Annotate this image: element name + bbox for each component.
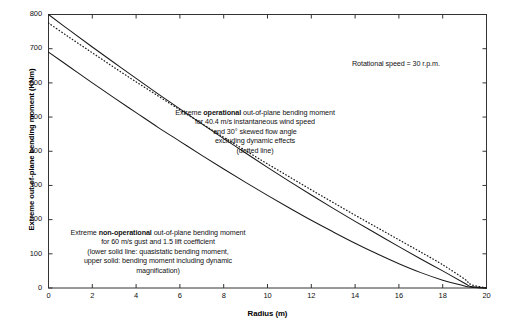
x-tick-label: 16 bbox=[389, 292, 409, 300]
x-tick-label: 2 bbox=[82, 292, 102, 300]
x-tick-label: 12 bbox=[301, 292, 321, 300]
annotation-line: magnification) bbox=[42, 266, 274, 275]
annotation-line: Extreme operational out-of-plane bending… bbox=[155, 108, 355, 117]
y-tick-label: 800 bbox=[16, 10, 42, 18]
x-tick-label: 8 bbox=[214, 292, 234, 300]
annotation-line: and 30° skewed flow angle bbox=[155, 127, 355, 136]
annotation-rotational-speed: Rotational speed = 30 r.p.m. bbox=[352, 59, 440, 68]
annotation-emphasis: operational bbox=[203, 108, 241, 117]
annotation-line: Rotational speed = 30 r.p.m. bbox=[352, 59, 440, 68]
y-axis-title: Extreme out-of-plane bending moment (KNm… bbox=[27, 50, 36, 250]
annotation-line: for 60 m/s gust and 1.5 lift coefficient bbox=[42, 237, 274, 246]
x-tick-label: 0 bbox=[39, 292, 59, 300]
annotation-emphasis: non-operational bbox=[99, 228, 152, 237]
x-tick-label: 14 bbox=[345, 292, 365, 300]
annotation-line: (lower solid line: quasistatic bending m… bbox=[42, 247, 274, 256]
annotation-line: for 40.4 m/s instantaneous wind speed bbox=[155, 117, 355, 126]
annotation-line: Extreme non-operational out-of-plane ben… bbox=[42, 228, 274, 237]
y-tick-label: 0 bbox=[16, 284, 42, 292]
annotation-line: upper solid: bending moment including dy… bbox=[42, 256, 274, 265]
x-tick-label: 4 bbox=[126, 292, 146, 300]
x-axis-title: Radius (m) bbox=[48, 309, 487, 318]
annotation-text: out-of-plane bending moment bbox=[152, 228, 246, 237]
x-tick-label: 10 bbox=[258, 292, 278, 300]
annotation-text: out-of-plane bending moment bbox=[241, 108, 335, 117]
annotation-line: (dotted line) bbox=[155, 146, 355, 155]
y-tick-label: 100 bbox=[16, 250, 42, 258]
annotation-non-operational: Extreme non-operational out-of-plane ben… bbox=[42, 228, 274, 275]
plot-canvas bbox=[0, 0, 508, 328]
annotation-text: Extreme bbox=[71, 228, 99, 237]
x-tick-label: 18 bbox=[433, 292, 453, 300]
chart-figure: 8007006005004003002001000 02468101214161… bbox=[0, 0, 508, 328]
annotation-operational: Extreme operational out-of-plane bending… bbox=[155, 108, 355, 155]
annotation-line: excluding dynamic effects bbox=[155, 136, 355, 145]
annotation-text: Extreme bbox=[175, 108, 203, 117]
x-tick-label: 6 bbox=[170, 292, 190, 300]
x-tick-label: 20 bbox=[477, 292, 497, 300]
